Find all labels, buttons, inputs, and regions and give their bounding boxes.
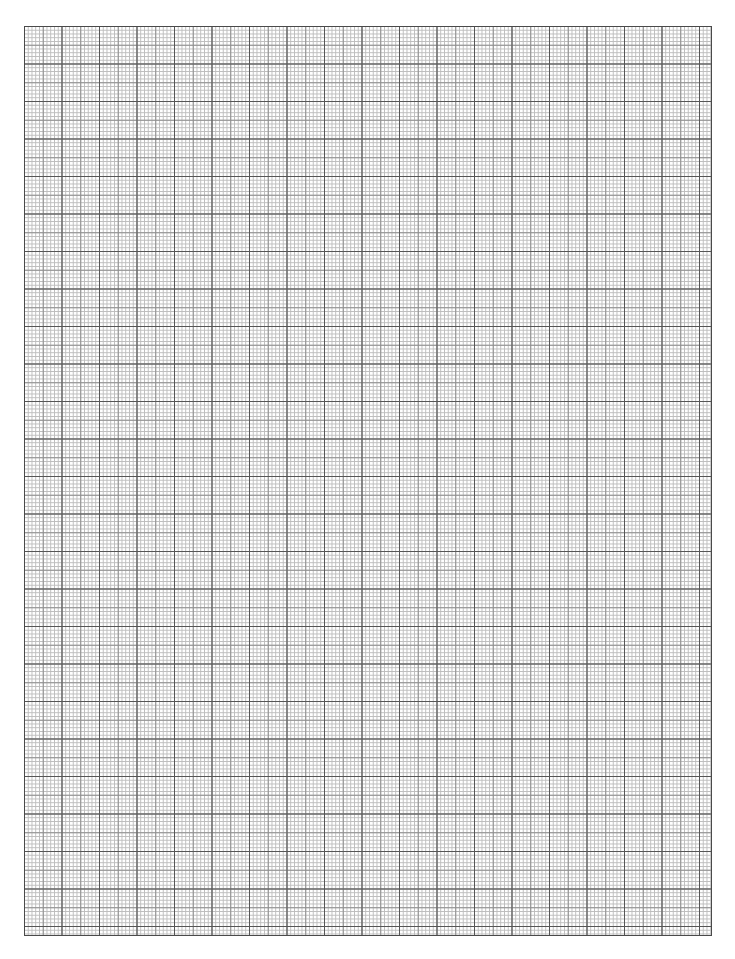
graph-paper-grid (24, 26, 712, 936)
page-canvas (0, 0, 735, 959)
grid-line-layers (24, 26, 712, 936)
